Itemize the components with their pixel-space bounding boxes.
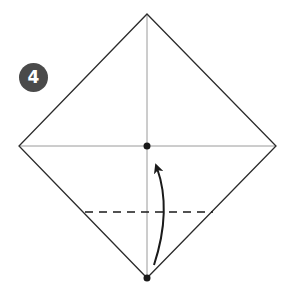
center-point-dot <box>144 143 151 150</box>
step-number: 4 <box>28 69 40 86</box>
origami-diagram: 4 <box>0 0 298 308</box>
fold-up-arrow-icon <box>154 168 164 265</box>
diagram-canvas <box>0 0 298 308</box>
step-number-badge: 4 <box>19 63 48 92</box>
bottom-point-dot <box>144 275 151 282</box>
